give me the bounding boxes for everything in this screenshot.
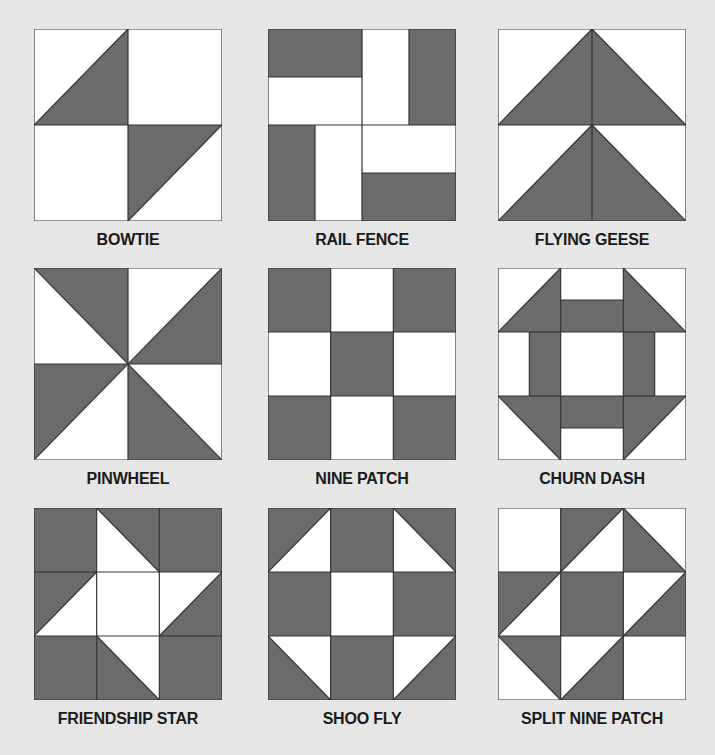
- bowtie-pattern-icon: [34, 29, 222, 221]
- pinwheel-label: PINWHEEL: [8, 470, 248, 488]
- pinwheel-pattern-icon: [34, 268, 222, 460]
- churn-dash-pattern-icon: [498, 268, 686, 460]
- split-nine-patch-label: SPLIT NINE PATCH: [472, 710, 712, 728]
- rail-fence-label: RAIL FENCE: [242, 231, 482, 249]
- friendship-star-pattern-icon: [34, 508, 222, 700]
- rail-fence-pattern-icon: [268, 29, 456, 221]
- nine-patch-label: NINE PATCH: [242, 470, 482, 488]
- bowtie-block: [34, 29, 222, 221]
- churn-dash-label: CHURN DASH: [472, 470, 712, 488]
- rail-fence-block: [268, 29, 456, 221]
- flying-geese-block: [498, 29, 686, 221]
- nine-patch-pattern-icon: [268, 268, 456, 460]
- shoo-fly-block: [268, 508, 456, 700]
- friendship-star-block: [34, 508, 222, 700]
- shoo-fly-pattern-icon: [268, 508, 456, 700]
- flying-geese-pattern-icon: [498, 29, 686, 221]
- bowtie-label: BOWTIE: [8, 231, 248, 249]
- churn-dash-block: [498, 268, 686, 460]
- split-nine-patch-pattern-icon: [498, 508, 686, 700]
- shoo-fly-label: SHOO FLY: [242, 710, 482, 728]
- split-nine-patch-block: [498, 508, 686, 700]
- friendship-star-label: FRIENDSHIP STAR: [8, 710, 248, 728]
- nine-patch-block: [268, 268, 456, 460]
- flying-geese-label: FLYING GEESE: [472, 231, 712, 249]
- pinwheel-block: [34, 268, 222, 460]
